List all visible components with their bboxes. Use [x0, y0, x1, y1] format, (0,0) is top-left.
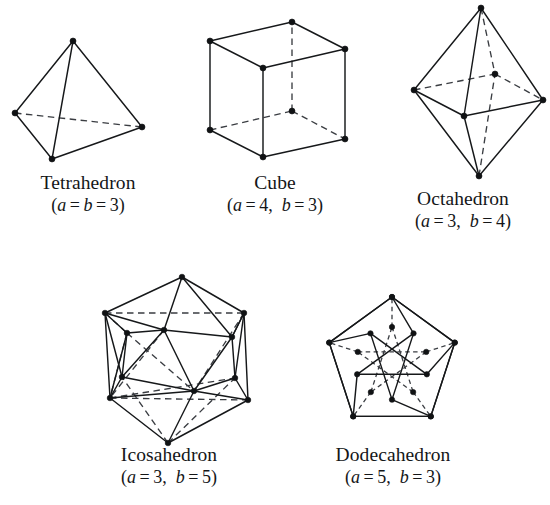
- param-b-equals: =: [93, 195, 110, 215]
- visible-edge: [127, 330, 164, 333]
- param-a-symbol: a: [351, 467, 360, 487]
- visible-edge: [194, 337, 232, 391]
- vertex-dot: [260, 65, 266, 71]
- solid-params-octahedron: (a = 3, b = 4): [376, 211, 550, 232]
- caption-tetrahedron: Tetrahedron (a = b = 3): [0, 172, 176, 216]
- vertex-dot: [355, 349, 360, 354]
- dodecahedron-wireframe: [327, 294, 458, 419]
- vertex-dot: [12, 110, 18, 116]
- vertex-dot: [368, 389, 373, 394]
- vertex-dot: [289, 108, 295, 114]
- param-b-value: = 3: [291, 195, 317, 215]
- visible-edge: [210, 41, 263, 68]
- vertex-dot: [410, 389, 415, 394]
- visible-edge: [263, 49, 345, 68]
- param-a-symbol: a: [127, 467, 136, 487]
- visible-edge: [164, 330, 194, 391]
- caption-dodecahedron: Dodecahedron (a = 5, b = 3): [292, 444, 494, 488]
- param-b-symbol: b: [282, 195, 291, 215]
- vertex-dot: [492, 71, 498, 77]
- visible-edge: [122, 377, 194, 391]
- vertex-dot: [342, 136, 348, 142]
- visible-edge: [122, 333, 127, 377]
- vertex-dot: [368, 331, 373, 336]
- octahedron-wireframe: [411, 5, 546, 179]
- vertex-dot: [428, 414, 433, 419]
- solid-label-dodecahedron: Dodecahedron: [292, 444, 494, 466]
- visible-edge: [292, 22, 345, 49]
- vertex-dot: [411, 87, 417, 93]
- vertex-dot: [245, 397, 251, 403]
- vertex-dot: [476, 173, 482, 179]
- solid-params-dodecahedron: (a = 5, b = 3): [292, 467, 494, 488]
- hidden-edge: [122, 377, 168, 443]
- visible-edge: [168, 400, 248, 443]
- visible-edge: [353, 374, 357, 416]
- vertex-dot: [389, 397, 394, 402]
- vertex-dot: [354, 372, 359, 377]
- visible-edge: [392, 297, 414, 333]
- visible-edge: [15, 113, 52, 159]
- visible-edge: [52, 41, 73, 159]
- icosahedron-wireframe: [102, 274, 251, 446]
- hidden-edge: [110, 398, 248, 400]
- caption-icosahedron: Icosahedron (a = 3, b = 5): [78, 444, 260, 488]
- visible-edge: [464, 8, 481, 116]
- tetrahedron-wireframe: [12, 38, 145, 162]
- vertex-dot: [342, 46, 348, 52]
- visible-edge: [329, 343, 353, 417]
- param-a-symbol: a: [233, 195, 242, 215]
- param-b-symbol: b: [470, 211, 479, 231]
- hidden-edge: [495, 74, 543, 100]
- caption-cube: Cube (a = 4, b = 3): [196, 172, 354, 216]
- solid-label-tetrahedron: Tetrahedron: [0, 172, 176, 194]
- vertex-dot: [411, 331, 416, 336]
- visible-edge: [263, 139, 345, 157]
- hidden-edge: [414, 74, 495, 90]
- param-a-equals: =: [66, 195, 83, 215]
- vertex-dot: [70, 38, 76, 44]
- visible-edge: [431, 343, 455, 417]
- paren-close: ): [505, 211, 511, 231]
- solid-label-icosahedron: Icosahedron: [78, 444, 260, 466]
- vertex-dot: [229, 334, 235, 340]
- param-a-symbol: a: [421, 211, 430, 231]
- vertex-dot: [139, 124, 145, 130]
- visible-edge: [110, 377, 122, 398]
- param-value: 3: [110, 195, 119, 215]
- vertex-dot: [191, 388, 197, 394]
- param-b-value: = 4: [479, 211, 505, 231]
- hidden-edge: [127, 333, 194, 391]
- visible-edge: [427, 343, 455, 375]
- vertex-dot: [107, 395, 113, 401]
- hidden-edge: [210, 111, 292, 130]
- caption-octahedron: Octahedron (a = 3, b = 4): [376, 188, 550, 232]
- paren-close: ): [317, 195, 323, 215]
- vertex-dot: [389, 294, 394, 299]
- vertex-dot: [124, 330, 130, 336]
- visible-edge: [182, 277, 244, 313]
- visible-edge: [414, 90, 479, 176]
- vertex-dot: [452, 340, 457, 345]
- solid-label-cube: Cube: [196, 172, 354, 194]
- paren-close: ): [119, 195, 125, 215]
- param-a-value: = 3,: [430, 211, 470, 231]
- visible-edge: [164, 330, 232, 337]
- vertex-dot: [232, 375, 238, 381]
- vertex-dot: [207, 127, 213, 133]
- visible-edge: [414, 90, 464, 116]
- hidden-edge: [329, 343, 358, 352]
- visible-edge: [414, 8, 481, 90]
- visible-edge: [232, 337, 235, 378]
- visible-edge: [194, 391, 248, 400]
- platonic-solids-figure: Tetrahedron (a = b = 3) Cube (a = 4, b =…: [0, 0, 550, 505]
- visible-edge: [244, 313, 248, 400]
- visible-edge: [122, 330, 164, 377]
- solid-label-octahedron: Octahedron: [376, 188, 550, 210]
- vertex-dot: [461, 113, 467, 119]
- vertex-dot: [424, 349, 429, 354]
- vertex-dot: [389, 324, 394, 329]
- vertex-dot: [540, 97, 546, 103]
- visible-edge: [210, 130, 263, 157]
- visible-edge: [182, 277, 232, 337]
